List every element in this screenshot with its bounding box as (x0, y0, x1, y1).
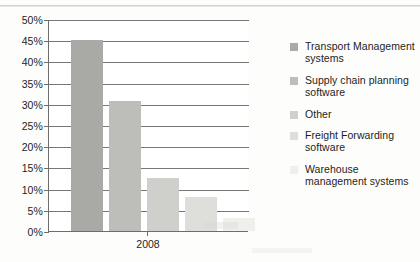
scan-artifact (252, 248, 312, 253)
y-axis-tick-label: 20% (3, 141, 43, 153)
y-axis-tick-label: 40% (3, 56, 43, 68)
chart-legend: Transport Management systemsSupply chain… (290, 40, 418, 197)
y-axis-tick-label: 30% (3, 99, 43, 111)
legend-item: Supply chain planning software (290, 74, 418, 99)
y-axis-tick-label: 15% (3, 162, 43, 174)
y-axis-labels: 0%5%10%15%20%25%30%35%40%45%50% (0, 20, 43, 232)
x-axis-tick (147, 232, 148, 236)
plot-area (48, 20, 248, 232)
y-axis-tick (44, 105, 49, 106)
y-axis-tick (44, 126, 49, 127)
bar (147, 178, 179, 231)
legend-item-label: Other (305, 108, 332, 120)
scan-top-rule-shadow (0, 6, 420, 7)
y-axis-tick-label: 25% (3, 120, 43, 132)
legend-item-label: Supply chain planning software (305, 74, 418, 99)
y-axis-tick-label: 5% (3, 205, 43, 217)
y-axis-tick-label: 10% (3, 184, 43, 196)
legend-item: Other (290, 108, 418, 120)
legend-item-label: Transport Management systems (305, 40, 418, 65)
y-axis-tick (44, 232, 49, 233)
y-axis-tick (44, 62, 49, 63)
y-axis-tick (44, 84, 49, 85)
chart-page: 0%5%10%15%20%25%30%35%40%45%50% 2008 Tra… (0, 0, 420, 262)
legend-swatch-icon (290, 132, 298, 140)
legend-item: Warehouse management systems (290, 163, 418, 188)
y-axis-tick (44, 147, 49, 148)
bar (223, 218, 255, 231)
y-axis-tick (44, 20, 49, 21)
x-axis-category-label: 2008 (98, 238, 198, 250)
legend-item: Transport Management systems (290, 40, 418, 65)
y-axis-tick-label: 0% (3, 226, 43, 238)
bar (185, 197, 217, 231)
y-axis-tick (44, 41, 49, 42)
legend-swatch-icon (290, 43, 298, 51)
bar (109, 101, 141, 231)
legend-swatch-icon (290, 166, 298, 174)
legend-item: Freight Forwarding software (290, 129, 418, 154)
legend-swatch-icon (290, 77, 298, 85)
y-axis-tick-label: 35% (3, 78, 43, 90)
bar (71, 40, 103, 231)
legend-item-label: Warehouse management systems (305, 163, 418, 188)
y-axis-tick (44, 190, 49, 191)
y-axis-tick-label: 50% (3, 14, 43, 26)
y-axis-tick (44, 211, 49, 212)
y-axis-tick-label: 45% (3, 35, 43, 47)
y-axis-tick (44, 168, 49, 169)
legend-item-label: Freight Forwarding software (305, 129, 418, 154)
gridline (49, 20, 249, 21)
legend-swatch-icon (290, 111, 298, 119)
